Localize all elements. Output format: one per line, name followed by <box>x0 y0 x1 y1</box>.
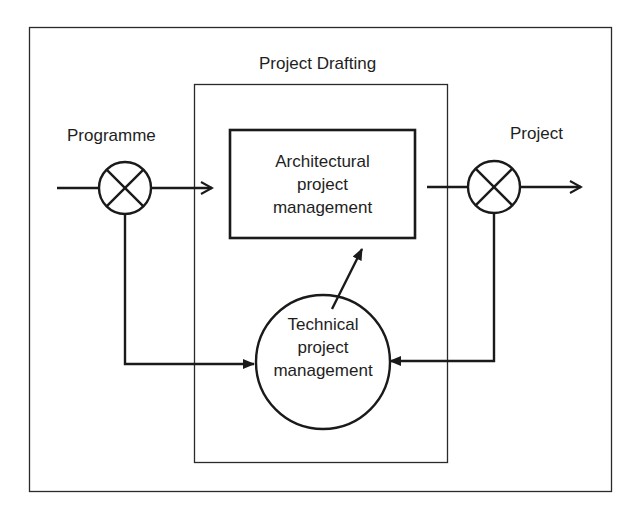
project-drafting-label: Project Drafting <box>259 54 376 74</box>
technical-line-3: management <box>256 359 390 382</box>
input-junction-icon <box>99 162 151 214</box>
block-diagram <box>0 0 637 520</box>
technical-line-2: project <box>256 336 390 359</box>
architectural-line-1: Architectural <box>232 150 413 173</box>
feedback-right-to-technical <box>390 213 494 361</box>
architectural-label: Architectural project management <box>232 150 413 219</box>
architectural-line-2: project <box>232 173 413 196</box>
project-label: Project <box>510 124 563 144</box>
programme-label: Programme <box>67 126 156 146</box>
feedback-left-to-technical <box>125 214 254 364</box>
technical-label: Technical project management <box>256 313 390 382</box>
technical-line-1: Technical <box>256 313 390 336</box>
output-junction-icon <box>468 161 520 213</box>
architectural-line-3: management <box>232 196 413 219</box>
